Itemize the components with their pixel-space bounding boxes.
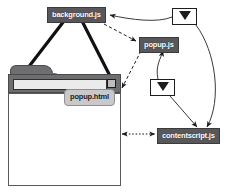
edge-envelope-top-to-background xyxy=(110,15,172,20)
node-contentscript-js[interactable]: contentscript.js xyxy=(157,128,220,144)
envelope-icon xyxy=(172,8,197,25)
envelope-flap-icon xyxy=(157,82,169,91)
node-background-js[interactable]: background.js xyxy=(47,7,106,23)
envelope-icon xyxy=(150,79,175,96)
browser-page-content xyxy=(8,93,121,186)
diagram-canvas: background.js popup.js contentscript.js … xyxy=(0,0,230,192)
browser-window xyxy=(8,65,121,186)
edge-background-to-popupjs xyxy=(104,24,136,41)
edge-envelope-mid-to-popupjs xyxy=(157,51,163,79)
node-popup-js[interactable]: popup.js xyxy=(139,37,179,53)
browser-action-button[interactable] xyxy=(107,79,116,88)
envelope-flap-icon xyxy=(179,11,191,20)
edge-envelope-top-to-contentscript xyxy=(196,25,215,127)
node-popup-html[interactable]: popup.html xyxy=(64,89,115,106)
omnibox-address-bar[interactable] xyxy=(13,79,107,90)
edge-envelope-mid-to-contentscript xyxy=(170,96,197,127)
edge-popupjs-to-popuphtml xyxy=(122,51,141,88)
